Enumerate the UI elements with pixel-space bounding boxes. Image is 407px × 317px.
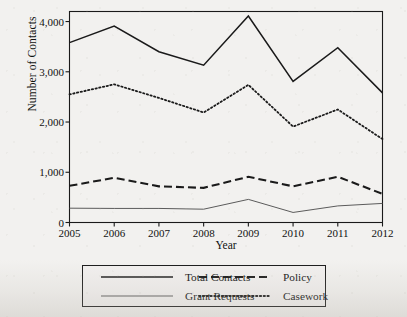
chart-figure: 01,0002,0003,0004,000 Number of Contacts… bbox=[0, 0, 407, 317]
legend-item-policy: Policy bbox=[277, 269, 312, 285]
legend-label-casework: Casework bbox=[283, 290, 328, 302]
legend-item-casework: Casework bbox=[277, 288, 328, 304]
x-tick-label: 2006 bbox=[103, 227, 125, 239]
y-tick-marks bbox=[66, 22, 70, 223]
x-tick-label: 2012 bbox=[372, 227, 394, 239]
x-tick-marks bbox=[70, 223, 383, 227]
legend-item-total-contacts: Total Contacts bbox=[179, 269, 250, 285]
legend-label-grant-requests: Grant Requests bbox=[185, 290, 254, 302]
legend-item-grant-requests: Grant Requests bbox=[179, 288, 254, 304]
x-tick-label: 2009 bbox=[237, 227, 259, 239]
series-line-policy bbox=[70, 177, 383, 194]
series-lines bbox=[70, 16, 383, 212]
x-tick-label: 2011 bbox=[327, 227, 349, 239]
series-line-grant-requests bbox=[70, 199, 383, 212]
legend-label-total-contacts: Total Contacts bbox=[185, 271, 250, 283]
series-line-total-contacts bbox=[70, 16, 383, 93]
x-tick-label: 2010 bbox=[282, 227, 304, 239]
chart-legend: Total Contacts Policy Grant Requests Cas… bbox=[82, 265, 326, 307]
legend-label-policy: Policy bbox=[283, 271, 312, 283]
x-tick-label: 2005 bbox=[59, 227, 81, 239]
x-tick-label: 2008 bbox=[193, 227, 215, 239]
x-tick-label: 2007 bbox=[148, 227, 170, 239]
series-line-casework bbox=[70, 84, 383, 139]
